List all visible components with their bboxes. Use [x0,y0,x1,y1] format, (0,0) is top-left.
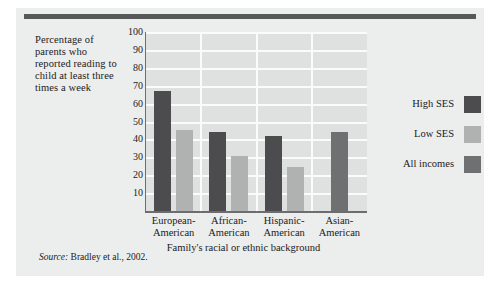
x-axis-category-label: African-American [201,215,256,240]
x-axis-label-line: American [201,227,256,239]
y-axis-tick-labels: 100908070605040302010 [120,32,145,214]
legend-swatch [464,96,481,113]
y-axis-caption: Percentage of parents who reported readi… [35,34,119,94]
x-axis-label-line: American [312,227,367,239]
bar [154,91,171,211]
x-axis-category-label: Asian-American [312,215,367,240]
legend-swatch [464,126,481,143]
x-axis-label-line: American [257,227,312,239]
x-axis-category-label: European-American [146,215,201,240]
chart-legend: High SESLow SESAll incomes [384,94,484,184]
legend-item: Low SES [384,124,484,149]
y-axis-tick: 10 [133,188,143,198]
bar [231,156,248,211]
y-axis-tick: 100 [128,27,143,37]
x-axis-category-labels: European-AmericanAfrican-AmericanHispani… [146,215,367,243]
legend-swatch [464,156,481,173]
chart-plot: 100908070605040302010 [120,32,367,214]
group-separator [311,32,313,211]
x-axis-label-line: African- [201,215,256,227]
y-axis-tick: 50 [133,117,143,127]
x-axis-title: Family's racial or ethnic background [120,242,367,253]
bar [176,130,193,211]
bar [265,136,282,211]
legend-item: All incomes [384,154,484,179]
x-axis-line [145,211,367,213]
x-axis-label-line: European- [146,215,201,227]
source-note: Source: Bradley et al., 2002. [39,252,148,262]
legend-label: Low SES [414,128,454,139]
legend-label: All incomes [403,158,454,169]
y-axis-tick: 60 [133,99,143,109]
y-axis-tick: 80 [133,63,143,73]
bar [209,132,226,211]
source-label: Source: [39,252,68,262]
group-separator [256,32,258,211]
legend-label: High SES [412,98,454,109]
y-axis-tick: 20 [133,170,143,180]
y-axis-tick: 90 [133,45,143,55]
figure-card: Percentage of parents who reported readi… [16,8,484,276]
top-rule-divider [24,14,476,19]
group-separator [200,32,202,211]
bar [287,167,304,211]
x-axis-label-line: Asian- [312,215,367,227]
y-axis-tick: 30 [133,152,143,162]
legend-item: High SES [384,94,484,119]
y-axis-tick: 40 [133,134,143,144]
x-axis-label-line: Hispanic- [257,215,312,227]
source-text: Bradley et al., 2002. [71,252,148,262]
bar [331,132,348,211]
x-axis-label-line: American [146,227,201,239]
plot-area [146,32,367,211]
y-axis-tick: 70 [133,81,143,91]
x-axis-category-label: Hispanic-American [257,215,312,240]
